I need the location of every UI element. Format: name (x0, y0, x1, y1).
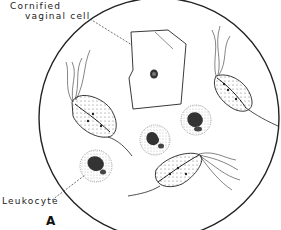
trichomonad-bottom (128, 153, 240, 196)
leukocyte-center (140, 125, 170, 155)
label-leukocyte: Leukocyte (2, 196, 59, 206)
label-cornified-line1: Cornified (10, 1, 61, 11)
cornified-vaginal-cell (129, 30, 186, 109)
cornified-leader-line (90, 19, 132, 45)
panel-letter: A (46, 214, 55, 228)
leukocyte-upper-right (181, 105, 211, 135)
trichomonad-right (212, 26, 278, 126)
trichomonad-left (66, 50, 132, 156)
label-cornified-line2: vaginal cell (25, 11, 91, 21)
leukocyte-lower-left (80, 150, 112, 182)
